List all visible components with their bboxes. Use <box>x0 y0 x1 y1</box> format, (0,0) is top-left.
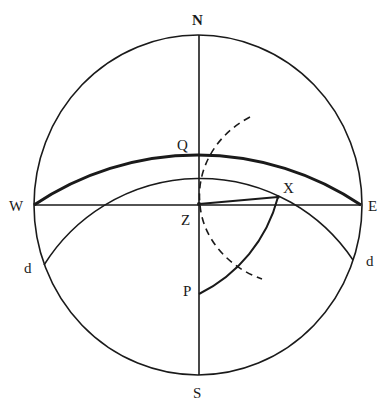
label-declination-right: d <box>366 253 374 269</box>
label-east: E <box>368 198 377 214</box>
label-declination-left: d <box>24 260 32 276</box>
label-zenith: Z <box>181 212 190 228</box>
altitude-line <box>199 197 278 204</box>
construction-arc <box>199 117 262 279</box>
label-equator-point: Q <box>177 137 188 153</box>
celestial-diagram: N S W E Z P Q X d d <box>0 0 386 411</box>
label-pole: P <box>183 283 191 299</box>
celestial-equator-arc <box>34 155 361 205</box>
label-star: X <box>283 180 294 196</box>
hour-circle-arc <box>199 197 278 294</box>
label-north: N <box>192 12 203 28</box>
label-south: S <box>193 385 201 401</box>
label-west: W <box>9 198 24 214</box>
zenith-point <box>197 202 201 206</box>
star-point <box>276 195 280 199</box>
